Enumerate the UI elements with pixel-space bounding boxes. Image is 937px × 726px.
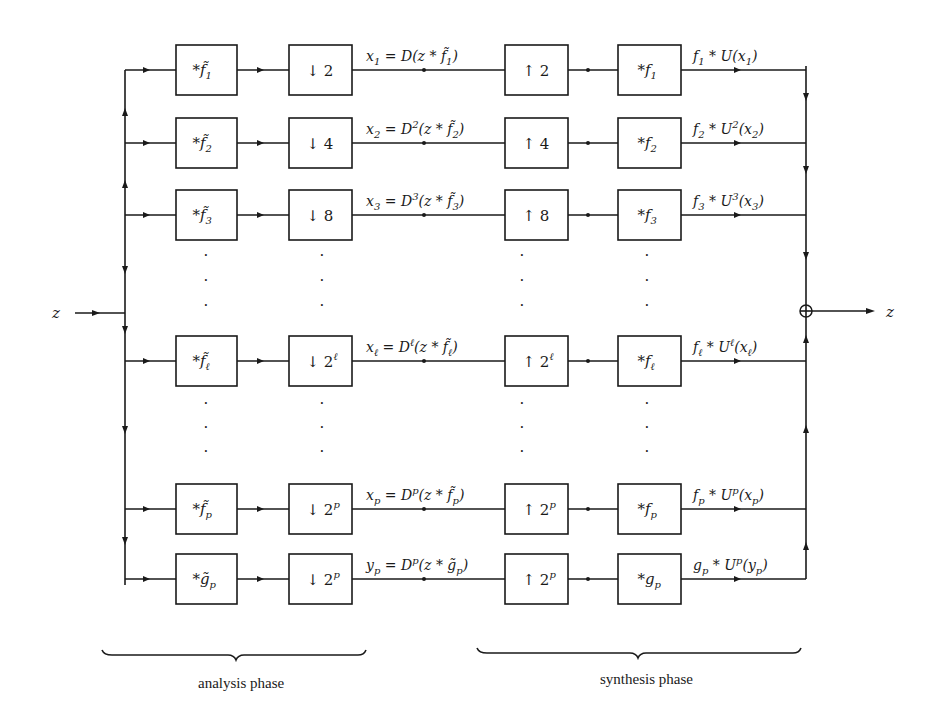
flow-arrow-icon (257, 67, 264, 73)
output-branch-arrow-icon (734, 576, 741, 582)
flow-arrow-icon (257, 576, 264, 582)
downsample-label: ↓ 2ℓ (307, 351, 338, 371)
wire-junction-dot (586, 577, 590, 581)
downsample-label: ↓ 4 (307, 135, 334, 153)
coefficient-label: xp​ = Dp​(z * f̃p​) (366, 485, 464, 506)
branch-arrow-icon (143, 67, 150, 73)
analysis-brace (102, 650, 366, 660)
flow-arrow-icon (257, 506, 264, 512)
ellipsis-dot: · (320, 271, 325, 289)
branch-arrow-icon (143, 506, 150, 512)
ellipsis-dot: · (320, 246, 325, 264)
output-branch-arrow-icon (734, 67, 741, 73)
ellipsis-dot: · (320, 394, 325, 412)
branch-arrow-icon (143, 140, 150, 146)
wire-junction-dot (422, 359, 426, 363)
wire-junction-dot (422, 577, 426, 581)
bus-arrow-down-icon (122, 266, 128, 274)
ellipsis-dot: · (320, 442, 325, 460)
branch-arrow-icon (143, 576, 150, 582)
wire-junction-dot (422, 213, 426, 217)
wire-junction-dot (422, 68, 426, 72)
ellipsis-dot: · (204, 394, 209, 412)
ellipsis-dot: · (320, 418, 325, 436)
coefficient-label: x1​ = D(z * f̃1​) (366, 47, 458, 67)
reconstruction-label: f3​ * U3​(x3​) (692, 191, 764, 212)
wire-junction-dot (586, 359, 590, 363)
ellipsis-dot: · (645, 418, 650, 436)
bus-arrow-up-icon (803, 335, 809, 343)
bus-arrow-up-icon (803, 542, 809, 550)
ellipsis-dot: · (320, 296, 325, 314)
output-branch-arrow-icon (734, 358, 741, 364)
bus-arrow-down-icon (122, 537, 128, 545)
filter-row-3: *f̃3↓ 8x3​ = D3​(z * f̃3​)↑ 8*f3f3​ * U3… (125, 190, 806, 240)
coefficient-label: x3​ = D3​(z * f̃3​) (366, 191, 464, 212)
filter-bank-diagram: z z *f̃1↓ 2x1​ = D(z * f̃1​)↑ 2*f1f1​ * … (0, 0, 937, 726)
branch-arrow-icon (143, 212, 150, 218)
wire-junction-dot (422, 141, 426, 145)
input-label: z (51, 304, 60, 322)
reconstruction-label: fℓ​ * Uℓ​(xℓ​) (692, 337, 757, 358)
wire-junction-dot (586, 141, 590, 145)
output-branch-arrow-icon (734, 506, 741, 512)
coefficient-label: xℓ​ = Dℓ​(z * f̃ℓ​) (366, 337, 458, 358)
reconstruction-label: f2​ * U2​(x2​) (692, 119, 764, 140)
flow-arrow-icon (257, 140, 264, 146)
ellipsis-dot: · (204, 271, 209, 289)
filter-row-2: *f̃2↓ 4x2​ = D2​(z * f̃2​)↑ 4*f2f2​ * U2… (125, 118, 806, 168)
ellipsis-dot: · (204, 442, 209, 460)
synthesis-phase-label: synthesis phase (600, 671, 693, 687)
output-arrow-icon (866, 308, 875, 314)
ellipsis-dot: · (520, 246, 525, 264)
bus-arrow-down-icon (803, 93, 809, 101)
bus-arrow-up-icon (122, 108, 128, 116)
bus-arrow-down-icon (122, 326, 128, 334)
coefficient-label: x2​ = D2​(z * f̃2​) (366, 119, 464, 140)
downsample-label: ↓ 8 (307, 207, 334, 225)
ellipsis-dot: · (520, 442, 525, 460)
ellipsis-dot: · (520, 418, 525, 436)
wire-junction-dot (586, 213, 590, 217)
filter-row-1: *f̃1↓ 2x1​ = D(z * f̃1​)↑ 2*f1f1​ * U(x1… (125, 45, 806, 95)
ellipsis-dot: · (645, 296, 650, 314)
output-branch-arrow-icon (734, 212, 741, 218)
bus-arrow-down-icon (803, 166, 809, 174)
synthesis-brace (477, 648, 801, 658)
ellipsis-dot: · (204, 246, 209, 264)
branch-arrow-icon (143, 358, 150, 364)
wire-junction-dot (586, 68, 590, 72)
reconstruction-label: fp​ * Up​(xp​) (692, 485, 764, 506)
reconstruction-label: f1​ * U(x1​) (692, 48, 757, 67)
upsample-label: ↑ 8 (523, 207, 550, 225)
bus-arrow-down-icon (122, 426, 128, 434)
output-label: z (885, 303, 894, 321)
input-arrow-icon (92, 310, 100, 316)
ellipsis-dot: · (645, 271, 650, 289)
output-branch-arrow-icon (734, 140, 741, 146)
reconstruction-label: gp​ * Up​(yp​) (693, 555, 768, 576)
wire-junction-dot (586, 507, 590, 511)
coefficient-label: yp​ = Dp​(z * g̃p​) (365, 555, 468, 576)
filter-row-l: *f̃ℓ↓ 2ℓxℓ​ = Dℓ​(z * f̃ℓ​)↑ 2ℓ*fℓfℓ​ * … (125, 336, 806, 386)
ellipsis-dot: · (645, 394, 650, 412)
ellipsis-dot: · (204, 418, 209, 436)
analysis-phase-label: analysis phase (198, 675, 285, 691)
ellipsis-dot: · (645, 246, 650, 264)
upsample-label: ↑ 4 (523, 135, 550, 153)
filter-row-p: *f̃p↓ 2pxp​ = Dp​(z * f̃p​)↑ 2p*fpfp​ * … (125, 484, 806, 534)
ellipsis-dot: · (204, 296, 209, 314)
downsample-label: ↓ 2 (307, 62, 334, 80)
bus-arrow-up-icon (122, 180, 128, 188)
flow-arrow-icon (257, 212, 264, 218)
bus-arrow-up-icon (803, 425, 809, 433)
ellipsis-dot: · (520, 271, 525, 289)
flow-arrow-icon (257, 358, 264, 364)
upsample-label: ↑ 2 (523, 62, 550, 80)
upsample-label: ↑ 2ℓ (523, 351, 554, 371)
filter-row-g: *g̃p↓ 2pyp​ = Dp​(z * g̃p​)↑ 2p*gpgp​ * … (125, 554, 806, 604)
ellipsis-dot: · (520, 296, 525, 314)
wire-junction-dot (422, 507, 426, 511)
ellipsis-dot: · (520, 394, 525, 412)
bus-arrow-down-icon (803, 252, 809, 260)
